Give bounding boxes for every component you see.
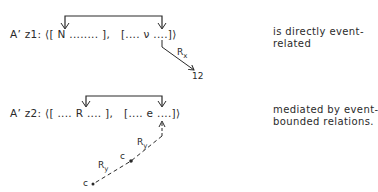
row1-note-line2: related	[273, 38, 364, 50]
ry-label-lower-sub: y	[104, 165, 108, 173]
row2-note-line2: bounded relations.	[273, 116, 378, 128]
ry-label-lower: Ry	[98, 160, 108, 173]
rx-label: Rx	[177, 47, 187, 60]
row2-note-line1: mediated by event-	[273, 104, 378, 116]
node-c-upper: c	[120, 151, 125, 161]
row2-formula: A’ z2: ⟨[ .... R .... ], [.... e ....]⟩	[10, 107, 180, 119]
row1-note-line1: is directly event-	[273, 26, 364, 38]
row2-note: mediated by event-bounded relations.	[273, 104, 378, 128]
rx-label-sub: x	[183, 52, 187, 60]
ry-dashed-chain	[92, 121, 166, 186]
row1-formula: A’ z1: ⟨[ N ........ ], [.... ν ....]⟩	[10, 28, 177, 40]
node-c-lower: c	[83, 178, 88, 188]
row1-note: is directly event-related	[273, 26, 364, 50]
ry-label-upper: Ry	[137, 137, 147, 150]
row2-link-bracket	[82, 96, 166, 107]
ry-label-upper-sub: y	[143, 142, 147, 150]
target-12: 12	[192, 71, 203, 81]
